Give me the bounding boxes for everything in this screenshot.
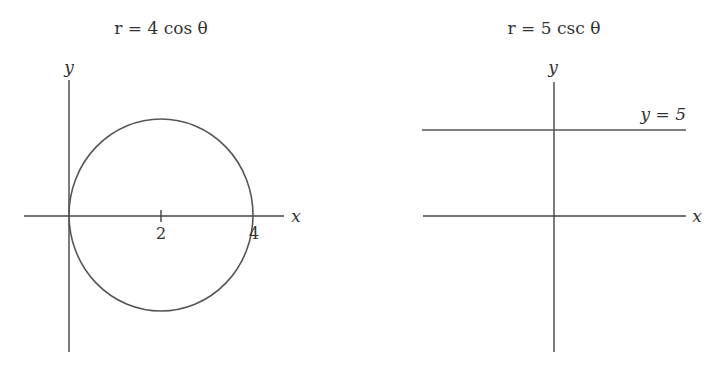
left-title: r = 4 cos θ xyxy=(114,18,208,38)
right-y-label: y xyxy=(547,57,558,77)
right-x-label: x xyxy=(692,206,702,226)
tick-label-4: 4 xyxy=(249,224,259,243)
left-y-label: y xyxy=(63,57,74,77)
right-title: r = 5 csc θ xyxy=(508,18,601,38)
left-x-label: x xyxy=(291,206,301,226)
right-panel: r = 5 csc θ y x y = 5 xyxy=(422,18,702,352)
left-panel: r = 4 cos θ y x 2 4 xyxy=(24,18,301,352)
line-label: y = 5 xyxy=(640,104,686,124)
tick-label-2: 2 xyxy=(156,224,166,243)
polar-graphs-figure: r = 4 cos θ y x 2 4 r = 5 csc θ y x y = … xyxy=(0,0,715,376)
